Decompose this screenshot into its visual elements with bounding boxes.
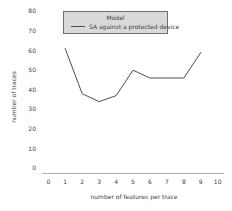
x-tick-label: 5 — [127, 179, 139, 185]
y-tick-label: 20 — [14, 126, 36, 132]
x-tick-label: 8 — [178, 179, 190, 185]
x-axis-title: number of features per trace — [36, 193, 232, 200]
y-tick-label: 50 — [14, 67, 36, 73]
legend-entry-label: SA against a protected device — [89, 22, 179, 31]
x-tick-label: 6 — [144, 179, 156, 185]
y-tick-label: 10 — [14, 146, 36, 152]
legend-entry: SA against a protected device — [64, 22, 167, 31]
y-tick-label: 70 — [14, 28, 36, 34]
y-tick-label: 30 — [14, 106, 36, 112]
y-tick-label: 0 — [14, 165, 36, 171]
x-tick-label: 0 — [42, 179, 54, 185]
x-tick-label: 3 — [93, 179, 105, 185]
x-tick-label: 7 — [161, 179, 173, 185]
line-swatch-icon — [71, 26, 85, 27]
x-tick-label: 1 — [59, 179, 71, 185]
x-tick-label: 2 — [76, 179, 88, 185]
y-tick-label: 40 — [14, 87, 36, 93]
legend-title: Model — [64, 13, 167, 22]
legend-box: Model SA against a protected device — [63, 11, 168, 34]
y-tick-label: 60 — [14, 48, 36, 54]
x-tick-label: 4 — [110, 179, 122, 185]
x-tick-label: 10 — [212, 179, 224, 185]
line-chart-figure: number of traces 01020304050607080 01234… — [0, 0, 232, 211]
series-line — [65, 49, 201, 102]
x-tick-label: 9 — [195, 179, 207, 185]
y-tick-label: 80 — [14, 8, 36, 14]
y-axis-title: number of traces — [10, 71, 17, 123]
